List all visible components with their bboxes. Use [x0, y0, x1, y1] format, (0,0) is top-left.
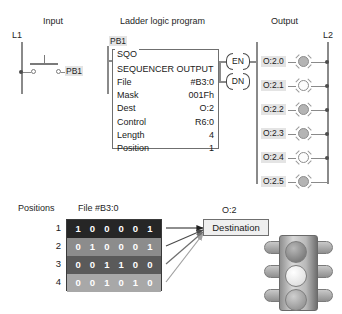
arrow-row-2: [166, 230, 203, 246]
traffic-light-visor-icon: [316, 265, 333, 278]
traffic-light-graphic: [264, 233, 338, 313]
plc-sequencer-output-diagram: Input Ladder logic program Output L1 PB1…: [0, 0, 342, 314]
traffic-light-visor-icon: [316, 289, 333, 302]
arrow-row-3: [166, 232, 203, 264]
destination-box: Destination: [203, 219, 269, 236]
traffic-light-amber-lamp: [285, 265, 307, 287]
traffic-light-visor-icon: [316, 241, 333, 254]
traffic-light-green-lamp: [285, 289, 307, 311]
destination-address-label: O:2: [222, 205, 237, 215]
traffic-light-red-lamp: [285, 241, 307, 263]
arrow-row-4: [166, 234, 203, 282]
